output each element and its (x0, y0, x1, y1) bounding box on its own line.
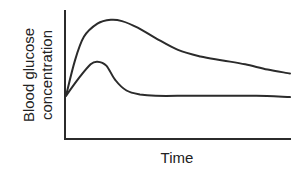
y-axis-label-line2: concentration (38, 30, 55, 120)
upper-glucose-curve (66, 20, 290, 96)
plot-area (66, 20, 290, 97)
y-axis-label: Blood glucose concentration (20, 28, 55, 122)
line-chart: Time Blood glucose concentration (0, 0, 303, 175)
x-axis-label: Time (161, 149, 194, 166)
y-axis-label-line1: Blood glucose (20, 28, 37, 122)
